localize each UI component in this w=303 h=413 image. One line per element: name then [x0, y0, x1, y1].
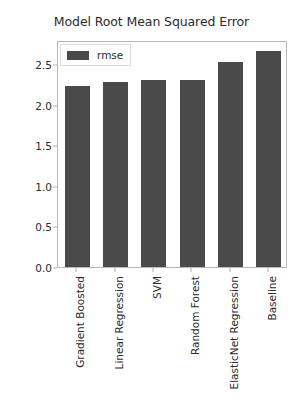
- y-tick-label: 0.0: [12, 262, 52, 274]
- bar: [65, 86, 90, 267]
- chart-figure: Model Root Mean Squared Error RMSE 0.00.…: [0, 0, 303, 413]
- x-tick-mark: [152, 268, 153, 272]
- legend-swatch-rmse: [67, 51, 89, 60]
- plot-area: [57, 41, 287, 268]
- bar: [218, 62, 243, 267]
- y-tick-label: 0.5: [12, 221, 52, 233]
- y-tick-label: 2.0: [12, 100, 52, 112]
- y-tick-label: 1.5: [12, 140, 52, 152]
- y-tick-label: 2.5: [12, 59, 52, 71]
- x-tick-mark: [191, 268, 192, 272]
- bar: [103, 82, 128, 267]
- x-tick-label: SVM: [151, 276, 163, 299]
- x-tick-mark: [76, 268, 77, 272]
- x-tick-mark: [229, 268, 230, 272]
- legend-label-rmse: rmse: [97, 49, 123, 61]
- x-tick-mark: [267, 268, 268, 272]
- x-tick-label: Linear Regression: [113, 276, 125, 369]
- bar: [141, 80, 166, 267]
- x-tick-mark: [114, 268, 115, 272]
- chart-legend: rmse: [60, 44, 131, 66]
- y-tick-label: 1.0: [12, 181, 52, 193]
- x-tick-label: Baseline: [266, 276, 278, 321]
- x-tick-label: Random Forest: [189, 276, 201, 355]
- x-tick-label: Gradient Boosted: [74, 276, 86, 368]
- chart-title: Model Root Mean Squared Error: [0, 14, 303, 29]
- x-tick-label: ElasticNet Regression: [228, 276, 240, 389]
- bar: [256, 51, 281, 267]
- bar: [180, 80, 205, 267]
